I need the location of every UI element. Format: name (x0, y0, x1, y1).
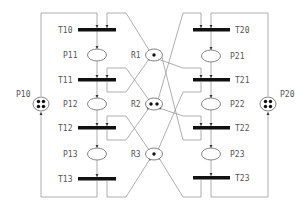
transition-label: T21 (235, 76, 250, 85)
place-P21[interactable] (202, 50, 221, 62)
token (149, 102, 152, 105)
transition-label: T22 (235, 124, 250, 133)
resource-label: R2 (131, 100, 141, 109)
transition-T12[interactable] (78, 126, 116, 130)
token (37, 100, 40, 103)
place-label: P12 (63, 100, 78, 109)
token (269, 100, 272, 103)
transition-label: T23 (235, 174, 250, 183)
transition-label: T11 (58, 76, 73, 85)
place-label: P22 (230, 100, 245, 109)
transition-label: T12 (58, 124, 73, 133)
transition-T13[interactable] (78, 177, 116, 181)
token (264, 100, 267, 103)
token (269, 105, 272, 108)
place-P22[interactable] (202, 98, 221, 110)
transition-T23[interactable] (193, 176, 230, 180)
right-places: P21 P22 P23 (202, 50, 245, 160)
place-label: P11 (63, 51, 78, 60)
token (42, 100, 45, 103)
transition-T21[interactable] (193, 78, 230, 82)
resource-R2[interactable] (146, 98, 163, 110)
place-P12[interactable] (88, 98, 107, 110)
token (37, 105, 40, 108)
place-label: P20 (280, 90, 295, 99)
token (42, 105, 45, 108)
left-places: P11 P12 P13 (63, 49, 107, 160)
token (264, 105, 267, 108)
place-label: P10 (16, 90, 31, 99)
resource-places: R1 R2 R3 (131, 49, 163, 160)
transition-label: T10 (58, 26, 73, 35)
transition-label: T20 (235, 26, 250, 35)
resource-label: R3 (131, 150, 141, 159)
place-P13[interactable] (88, 148, 107, 160)
transition-T20[interactable] (193, 28, 230, 32)
place-P20[interactable] (260, 97, 276, 111)
token (155, 102, 158, 105)
petri-net-diagram: T10 T11 T12 T13 T20 T21 T22 T23 P11 P12 … (0, 0, 308, 208)
place-P23[interactable] (202, 148, 221, 160)
transition-label: T13 (58, 175, 73, 184)
transition-T11[interactable] (78, 78, 116, 82)
transition-T22[interactable] (193, 126, 230, 130)
transition-T10[interactable] (78, 28, 116, 32)
resource-label: R1 (131, 51, 141, 60)
token (152, 152, 155, 155)
place-P10[interactable] (33, 97, 49, 111)
place-P11[interactable] (88, 49, 107, 61)
place-label: P21 (230, 52, 245, 61)
place-label: P13 (63, 150, 78, 159)
token (152, 53, 155, 56)
place-label: P23 (230, 150, 245, 159)
